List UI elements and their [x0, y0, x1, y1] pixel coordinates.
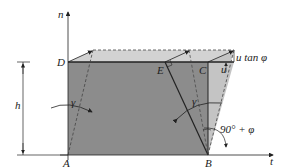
label-D: D	[57, 57, 65, 68]
label-u: u	[221, 64, 227, 75]
label-t-axis: t	[270, 156, 273, 167]
label-B: B	[205, 158, 212, 168]
shear-diagram	[0, 0, 287, 168]
label-gamma-right: γ	[192, 96, 196, 107]
label-A: A	[63, 158, 70, 168]
label-u-tan-phi: u tan φ	[236, 52, 267, 63]
label-E: E	[157, 65, 164, 76]
label-C: C	[199, 65, 206, 76]
label-h: h	[15, 100, 21, 111]
right-sliver	[208, 62, 234, 155]
label-n-axis: n	[58, 9, 64, 20]
label-angle-B: 90° + φ	[220, 124, 254, 135]
label-gamma-left: γ	[71, 97, 75, 108]
